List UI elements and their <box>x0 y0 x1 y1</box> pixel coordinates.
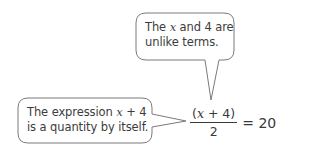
fraction: (x + 4) 2 <box>190 106 237 139</box>
text-segment: and 4 are <box>176 20 234 34</box>
top-bubble-line-2: unlike terms. <box>145 35 237 50</box>
left-bubble-line-1: The expression x + 4 <box>27 105 157 120</box>
top-bubble-line-1: The x and 4 are <box>145 20 237 35</box>
fraction-numerator: (x + 4) <box>190 106 237 123</box>
text-segment: The <box>145 20 170 34</box>
text-segment: The expression <box>27 105 116 119</box>
equation: (x + 4) 2 = 20 <box>190 106 276 139</box>
fraction-denominator: 2 <box>210 123 218 139</box>
variable-x: x <box>197 106 204 121</box>
numerator-rest: + 4) <box>204 106 235 121</box>
text-segment: + 4 <box>123 105 147 119</box>
left-bubble-line-2: is a quantity by itself. <box>27 120 157 135</box>
top-bubble-text: The x and 4 are unlike terms. <box>145 20 237 50</box>
left-bubble-text: The expression x + 4 is a quantity by it… <box>27 105 157 135</box>
equation-rhs: = 20 <box>242 115 276 131</box>
